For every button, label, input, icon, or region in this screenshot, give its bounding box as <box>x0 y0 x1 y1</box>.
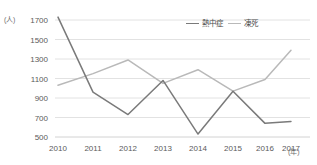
chart-canvas <box>0 0 317 165</box>
legend-item-heatstroke: 熱中症 <box>186 20 223 28</box>
x-tick-label: 2015 <box>224 144 242 153</box>
chart-legend: 熱中症 凍死 <box>186 20 258 28</box>
x-axis-unit-label: (年) <box>288 146 300 156</box>
x-tick-label: 2012 <box>119 144 137 153</box>
legend-swatch-heatstroke <box>186 23 199 24</box>
x-tick-label: 2013 <box>154 144 172 153</box>
legend-swatch-freezing <box>228 23 241 24</box>
legend-item-freezing: 凍死 <box>228 20 258 28</box>
line-chart: (人) 1700 1500 1300 1100 900 700 500 2010… <box>0 0 317 165</box>
x-tick-label: 2016 <box>256 144 274 153</box>
x-tick-label: 2011 <box>84 144 101 153</box>
legend-label-freezing: 凍死 <box>244 20 258 28</box>
gridlines <box>55 20 310 137</box>
x-tick-label: 2014 <box>189 144 207 153</box>
series-line-heatstroke <box>58 17 291 134</box>
series-line-freezing <box>58 50 291 91</box>
legend-label-heatstroke: 熱中症 <box>202 20 223 28</box>
x-tick-label: 2010 <box>49 144 67 153</box>
